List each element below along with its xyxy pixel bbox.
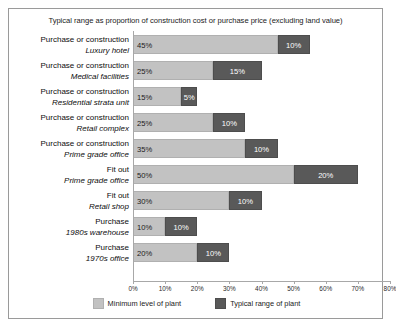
bar-value-label: 10%	[246, 144, 276, 153]
category-label: Purchase or constructionMedical faciliti…	[9, 58, 132, 84]
chart-row: Purchase or constructionMedical faciliti…	[9, 58, 384, 84]
x-axis-tick-label: 30%	[223, 285, 236, 292]
bar-value-label: 30%	[137, 196, 152, 205]
bar-segment-minimum: 25%	[133, 61, 213, 80]
category-activity: Purchase or construction	[9, 86, 129, 97]
bar-segment-typical: 10%	[245, 139, 277, 158]
x-axis-tick-label: 0%	[128, 285, 137, 292]
bar-segment-minimum: 15%	[133, 87, 181, 106]
x-axis-tick-label: 20%	[191, 285, 204, 292]
category-label: Purchase1980s warehouse	[9, 214, 132, 240]
bar-segment-minimum: 45%	[133, 35, 278, 54]
x-axis-tick	[262, 281, 263, 284]
legend-label-typical: Typical range of plant	[230, 299, 300, 308]
bar-segment-minimum: 30%	[133, 191, 229, 210]
bar-value-label: 45%	[137, 40, 152, 49]
category-activity: Purchase or construction	[9, 60, 129, 71]
chart-row: Purchase1970s office20%10%	[9, 240, 384, 266]
chart-frame: Typical range as proportion of construct…	[8, 8, 383, 319]
bar-segment-minimum: 25%	[133, 113, 213, 132]
bar-segment-minimum: 50%	[133, 165, 294, 184]
category-label: Purchase or constructionResidential stra…	[9, 84, 132, 110]
legend-label-minimum: Minimum level of plant	[108, 299, 182, 308]
category-asset: Medical facilities	[9, 71, 129, 82]
x-axis-tick	[165, 281, 166, 284]
legend-swatch-typical-icon	[215, 298, 226, 309]
x-axis-tick-label: 80%	[384, 285, 396, 292]
category-activity: Purchase or construction	[9, 112, 129, 123]
bar-value-label: 35%	[137, 144, 152, 153]
bar-segment-minimum: 10%	[133, 217, 165, 236]
bar-value-label: 50%	[137, 170, 152, 179]
bar-value-label: 10%	[230, 196, 260, 205]
category-label: Fit outPrime grade office	[9, 162, 132, 188]
bar-segment-typical: 10%	[278, 35, 310, 54]
bar-segment-minimum: 35%	[133, 139, 245, 158]
x-axis-tick	[229, 281, 230, 284]
chart-row: Purchase or constructionResidential stra…	[9, 84, 384, 110]
bar-value-label: 25%	[137, 66, 152, 75]
category-asset: Residential strata unit	[9, 97, 129, 108]
x-axis-tick-label: 50%	[287, 285, 300, 292]
bar-value-label: 20%	[295, 170, 357, 179]
bar-segment-typical: 10%	[229, 191, 261, 210]
legend-swatch-minimum-icon	[93, 298, 104, 309]
x-axis-tick	[358, 281, 359, 284]
chart-row: Purchase1980s warehouse10%10%	[9, 214, 384, 240]
bar-segment-typical: 10%	[197, 243, 229, 262]
bar-value-label: 15%	[214, 66, 260, 75]
category-label: Purchase or constructionRetail complex	[9, 110, 132, 136]
x-axis-tick	[326, 281, 327, 284]
bar-value-label: 10%	[198, 248, 228, 257]
y-axis-spine	[133, 31, 134, 281]
category-asset: Prime grade office	[9, 149, 129, 160]
category-activity: Fit out	[9, 190, 129, 201]
bar-value-label: 10%	[279, 40, 309, 49]
legend-item-typical: Typical range of plant	[215, 298, 300, 309]
bar-segment-typical: 10%	[165, 217, 197, 236]
bar-value-label: 15%	[137, 92, 152, 101]
bar-value-label: 10%	[137, 222, 152, 231]
category-asset: 1980s warehouse	[9, 227, 129, 238]
category-asset: 1970s office	[9, 253, 129, 264]
x-axis-tick	[390, 281, 391, 284]
x-axis-tick-label: 70%	[351, 285, 364, 292]
bar-value-label: 10%	[166, 222, 196, 231]
category-activity: Purchase	[9, 242, 129, 253]
bar-segment-minimum: 20%	[133, 243, 197, 262]
x-axis-tick-label: 40%	[255, 285, 268, 292]
x-axis-tick	[294, 281, 295, 284]
category-label: Fit outRetail shop	[9, 188, 132, 214]
category-label: Purchase or constructionPrime grade offi…	[9, 136, 132, 162]
legend-item-minimum: Minimum level of plant	[93, 298, 182, 309]
chart-title: Typical range as proportion of construct…	[9, 16, 382, 25]
chart-row: Purchase or constructionRetail complex25…	[9, 110, 384, 136]
bar-value-label: 10%	[214, 118, 244, 127]
bar-value-label: 20%	[137, 248, 152, 257]
x-axis-tick	[133, 281, 134, 284]
chart-row: Fit outRetail shop30%10%	[9, 188, 384, 214]
category-activity: Purchase or construction	[9, 138, 129, 149]
category-asset: Retail shop	[9, 201, 129, 212]
plot-area: Purchase or constructionLuxury hotel45%1…	[9, 31, 384, 281]
chart-legend: Minimum level of plant Typical range of …	[9, 298, 384, 309]
chart-row: Purchase or constructionPrime grade offi…	[9, 136, 384, 162]
category-activity: Purchase or construction	[9, 34, 129, 45]
x-axis-tick-label: 60%	[319, 285, 332, 292]
bar-value-label: 5%	[182, 92, 196, 101]
bar-value-label: 25%	[137, 118, 152, 127]
x-axis-tick	[197, 281, 198, 284]
category-label: Purchase or constructionLuxury hotel	[9, 32, 132, 58]
bar-segment-typical: 10%	[213, 113, 245, 132]
category-label: Purchase1970s office	[9, 240, 132, 266]
bar-segment-typical: 15%	[213, 61, 261, 80]
bar-segment-typical: 5%	[181, 87, 197, 106]
category-asset: Luxury hotel	[9, 45, 129, 56]
bar-segment-typical: 20%	[294, 165, 358, 184]
chart-row: Purchase or constructionLuxury hotel45%1…	[9, 32, 384, 58]
category-asset: Prime grade office	[9, 175, 129, 186]
x-axis-tick-label: 10%	[159, 285, 172, 292]
category-activity: Fit out	[9, 164, 129, 175]
category-asset: Retail complex	[9, 123, 129, 134]
category-activity: Purchase	[9, 216, 129, 227]
